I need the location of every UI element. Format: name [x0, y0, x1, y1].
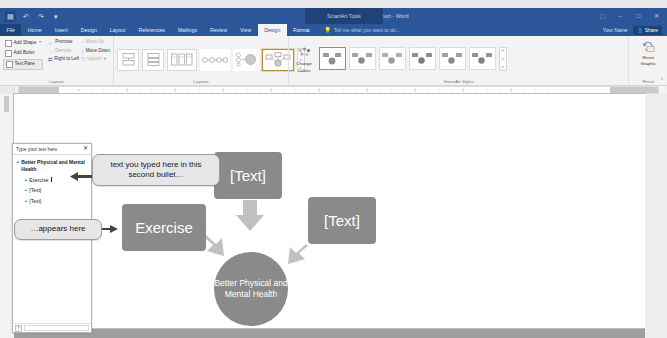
contextual-tab-label: SmartArt Tools — [305, 8, 383, 24]
reset-graphic-label-1: Reset — [642, 55, 653, 60]
node-text-top[interactable]: [Text] — [214, 152, 282, 199]
node-text-right[interactable]: [Text] — [308, 197, 376, 244]
text-pane-footer: ? — [13, 323, 91, 332]
demote-arrow-icon: → — [48, 49, 53, 54]
scroll-down-icon[interactable]: ▾ — [502, 57, 504, 61]
change-colors-button[interactable]: Change Colors — [292, 44, 316, 72]
tab-file[interactable]: File — [0, 24, 21, 36]
undo-icon[interactable]: ↶ — [20, 11, 31, 22]
collapse-ribbon-icon[interactable]: ⌃ — [660, 78, 664, 83]
text-pane-button[interactable]: Text Pane — [3, 59, 43, 70]
restore-icon[interactable]: □ — [634, 13, 643, 19]
tell-me-search[interactable]: 💡 Tell me what you want to do... — [316, 24, 399, 36]
promote-arrow-icon: ← — [48, 40, 53, 45]
share-label: Share — [645, 27, 658, 33]
ribbon-group-smartart-styles: Change Colors — [288, 36, 628, 85]
tab-layout[interactable]: Layout — [103, 24, 132, 36]
layout-gallery-item[interactable] — [142, 49, 164, 71]
demote-button[interactable]: → Demote — [46, 48, 76, 55]
promote-button[interactable]: ← Promote — [46, 39, 76, 46]
layout-gallery-item[interactable] — [200, 49, 230, 71]
layout-gallery-item[interactable] — [233, 49, 259, 71]
add-shape-label: Add Shape — [14, 41, 37, 46]
layout-gallery-item[interactable] — [167, 49, 197, 71]
save-icon[interactable]: ▤ — [5, 11, 16, 22]
bullet-text: Better Physical and Mental Health — [21, 159, 88, 173]
layout-gallery-item[interactable] — [117, 49, 139, 71]
minimize-icon[interactable]: – — [616, 13, 625, 19]
tab-mailings[interactable]: Mailings — [171, 24, 203, 36]
change-colors-icon — [297, 46, 311, 60]
ruler-track[interactable] — [18, 86, 659, 94]
chevron-down-icon: ▾ — [39, 41, 41, 45]
share-button[interactable]: 👤 Share — [633, 26, 662, 35]
smartart-style-item[interactable] — [409, 47, 436, 70]
group-label-create-graphic: Layouts — [3, 79, 110, 85]
smartart-style-item-selected[interactable] — [319, 47, 346, 70]
demote-label: Demote — [55, 49, 71, 54]
tab-insert[interactable]: Insert — [48, 24, 74, 36]
ribbon-display-options-icon[interactable]: ⬚ — [598, 13, 607, 19]
window-controls: ⬚ – □ ✕ — [598, 13, 667, 19]
gallery-more-icon[interactable]: ▾ — [502, 65, 504, 69]
add-shape-button[interactable]: Add Shape ▾ — [3, 39, 43, 48]
ribbon-tab-bar: File Home Insert Design Layout Reference… — [0, 24, 667, 36]
right-to-left-button[interactable]: ⇄ Right to Left — [46, 56, 76, 63]
change-colors-label-2: Colors — [298, 68, 311, 73]
person-share-icon: 👤 — [637, 27, 643, 33]
customize-qat-icon[interactable]: ▾ — [50, 11, 61, 22]
add-bullet-button[interactable]: Add Bullet — [3, 49, 43, 58]
reset-graphic-icon — [642, 40, 655, 54]
reset-graphic-button[interactable]: Reset Graphic — [636, 38, 660, 66]
account-area: Your Name 👤 Share — [603, 24, 667, 36]
text-caret — [51, 177, 52, 182]
bullet-text: Exercise — [29, 177, 48, 184]
smartart-style-item[interactable] — [439, 47, 466, 70]
user-name[interactable]: Your Name — [603, 27, 628, 33]
close-icon[interactable]: ✕ — [83, 146, 88, 152]
list-item[interactable]: • Better Physical and Mental Health — [17, 159, 88, 173]
horizontal-ruler — [0, 86, 667, 94]
node-center[interactable]: Better Physical and Mental Health — [214, 252, 288, 326]
add-shape-icon — [5, 40, 12, 47]
move-down-button[interactable]: ↓ Move Down — [79, 48, 111, 55]
group-label-smartart-styles: SmartArt Styles — [292, 79, 625, 85]
bullet-icon: • — [25, 198, 27, 205]
callout-second-bullet: text you typed here in this second bulle… — [92, 154, 220, 186]
node-exercise[interactable]: Exercise — [122, 204, 206, 251]
lightbulb-icon: 💡 — [324, 27, 331, 33]
tab-design[interactable]: Design — [74, 24, 103, 36]
redo-icon[interactable]: ↷ — [35, 11, 46, 22]
tab-home[interactable]: Home — [21, 24, 48, 36]
bullet-text: [Text] — [29, 198, 41, 205]
list-item[interactable]: • [Text] — [25, 198, 88, 205]
list-item[interactable]: • Exercise — [25, 177, 88, 184]
help-icon[interactable]: ? — [15, 325, 22, 332]
tab-references[interactable]: References — [132, 24, 172, 36]
tab-smartart-design[interactable]: Design — [258, 24, 287, 36]
move-up-button[interactable]: ↑ Move Up — [79, 39, 111, 46]
scroll-up-icon[interactable]: ▴ — [502, 48, 504, 52]
tab-smartart-format[interactable]: Format — [287, 24, 316, 36]
promote-label: Promote — [55, 40, 72, 45]
quick-access-toolbar: ▤ ↶ ↷ ▾ — [0, 11, 155, 22]
smartart-style-item[interactable] — [349, 47, 376, 70]
close-icon[interactable]: ✕ — [652, 13, 661, 19]
text-pane-body[interactable]: • Better Physical and Mental Health • Ex… — [13, 155, 91, 205]
bullet-icon: • — [17, 159, 19, 173]
callout-appears-here: …appears here — [14, 219, 102, 240]
tab-view[interactable]: View — [234, 24, 258, 36]
styles-gallery-scroller[interactable]: ▴ ▾ ▾ — [499, 47, 507, 71]
chevron-down-icon: ▾ — [104, 58, 106, 62]
smartart-style-item[interactable] — [379, 47, 406, 70]
node-center-label: Better Physical and Mental Health — [214, 278, 288, 301]
tab-review[interactable]: Review — [203, 24, 233, 36]
smartart-style-item[interactable] — [469, 47, 496, 70]
list-item[interactable]: • [Text] — [25, 187, 88, 194]
text-pane-icon — [6, 61, 13, 68]
layout-button[interactable]: ☷ Layout ▾ — [79, 56, 111, 63]
move-down-label: Move Down — [86, 49, 110, 54]
move-up-icon: ↑ — [81, 40, 84, 45]
tell-me-placeholder: Tell me what you want to do... — [334, 27, 400, 33]
text-pane-label: Text Pane — [15, 62, 35, 67]
